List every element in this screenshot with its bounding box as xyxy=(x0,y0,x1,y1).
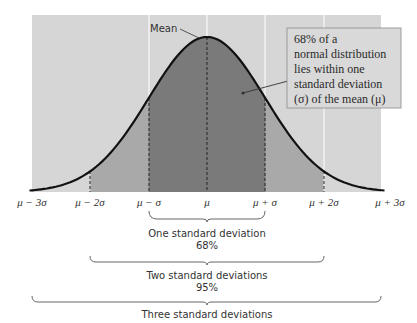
three-sigma-bracket xyxy=(32,296,381,305)
two-sigma-percent: 95% xyxy=(196,282,218,293)
one-sigma-percent: 68% xyxy=(196,240,218,251)
svg-text:μ + 3σ: μ + 3σ xyxy=(374,196,405,208)
svg-text:lies within one: lies within one xyxy=(294,62,365,76)
mean-label: Mean xyxy=(150,23,177,34)
callout-dot xyxy=(241,91,244,94)
svg-text:standard deviation: standard deviation xyxy=(294,77,382,91)
svg-text:μ − σ: μ − σ xyxy=(136,196,161,208)
svg-text:normal distribution: normal distribution xyxy=(294,47,386,61)
one-sigma-label: One standard deviation xyxy=(148,228,266,239)
svg-text:68% of a: 68% of a xyxy=(294,32,338,46)
svg-text:μ + σ: μ + σ xyxy=(252,196,277,208)
two-sigma-label: Two standard deviations xyxy=(145,270,267,281)
two-sigma-bracket xyxy=(90,256,324,265)
normal-distribution-figure: Mean 68% of a normal distribution lies w… xyxy=(0,0,417,323)
svg-text:μ: μ xyxy=(203,196,210,208)
svg-text:μ + 2σ: μ + 2σ xyxy=(308,196,339,208)
svg-text:μ − 2σ: μ − 2σ xyxy=(74,196,105,208)
x-axis-ticks: μ − 3σ μ − 2σ μ − σ μ μ + σ μ + 2σ μ + 3… xyxy=(16,196,405,208)
svg-text:(σ) of the mean (μ): (σ) of the mean (μ) xyxy=(294,92,386,106)
one-sigma-bracket xyxy=(149,211,265,222)
three-sigma-label: Three standard deviations xyxy=(140,309,272,320)
svg-text:μ − 3σ: μ − 3σ xyxy=(16,196,47,208)
